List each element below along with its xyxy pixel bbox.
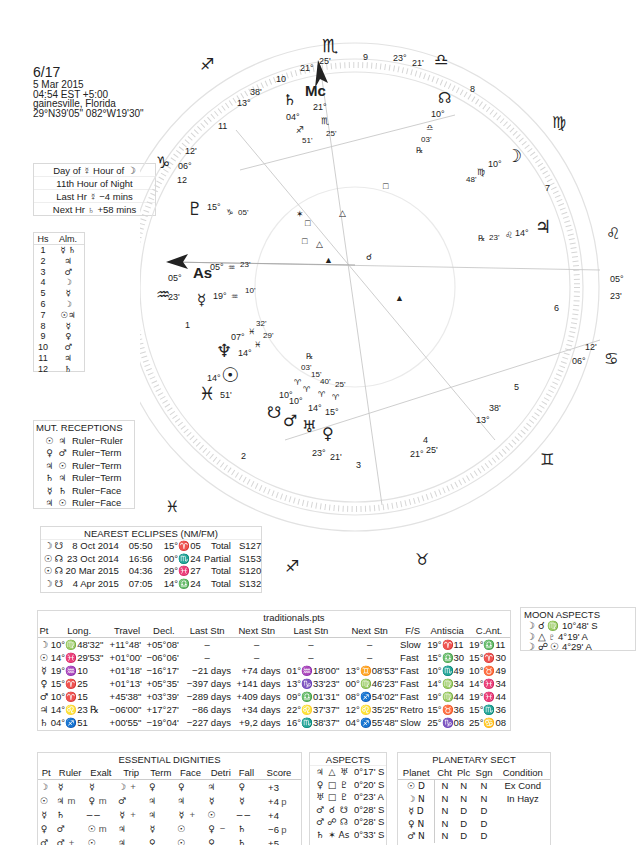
svg-text:29': 29' xyxy=(263,331,274,340)
column-header: Next Stn xyxy=(232,624,282,638)
svg-text:06°: 06° xyxy=(572,356,586,366)
mutual-receptions-panel: MUT. RECEPTIONS ☉♃Ruler−Ruler♀♂Ruler−Ter… xyxy=(33,420,135,509)
house-number: 12 xyxy=(34,364,52,375)
svg-text:14°: 14° xyxy=(238,348,252,358)
table-cell: 15°♈30 xyxy=(468,651,510,664)
svg-text:♃: ♃ xyxy=(535,216,551,237)
dignity-cell: ☿+ xyxy=(175,808,205,822)
almuten-row: 7☉♃ xyxy=(34,310,84,321)
aspect-orb: 0°33' S xyxy=(354,829,384,840)
luminary-glyph: ☽ xyxy=(44,540,55,553)
dignity-cell: +4p xyxy=(257,794,301,808)
table-cell: 16°♏38'37" xyxy=(282,716,341,729)
table-cell: 10°♈15 xyxy=(50,690,109,703)
planet-glyph: ♃ xyxy=(175,795,187,808)
svg-text:♌: ♌ xyxy=(505,230,513,240)
dignity-marker: m xyxy=(98,822,108,835)
svg-text:25': 25' xyxy=(319,56,331,66)
svg-text:▲: ▲ xyxy=(324,255,333,265)
column-header: Term xyxy=(146,766,175,780)
almuten-planet: ☿ xyxy=(52,288,84,299)
table-cell: – xyxy=(282,638,341,652)
sect-sgn: D xyxy=(473,830,496,843)
table-cell: 15°♏36 xyxy=(468,703,510,716)
svg-text:23°: 23° xyxy=(312,448,326,458)
table-cell: ☿ xyxy=(38,664,50,677)
table-cell: ♃ xyxy=(38,703,50,716)
dignity-cell: ♀ xyxy=(175,780,205,795)
dignity-cell: ☽ xyxy=(38,780,55,795)
almuten-planet: ♂ xyxy=(52,267,84,278)
aspects-panel: ASPECTS ♃△♅0°17' S♀□♇0°20' S♅□♇0°23' A♂☌… xyxy=(309,752,387,845)
svg-text:♌: ♌ xyxy=(606,224,620,243)
aspect-orb: 0°23' A xyxy=(354,791,384,802)
table-cell: – xyxy=(340,638,399,652)
svg-text:□: □ xyxy=(302,236,308,246)
table-cell: −86 days xyxy=(182,703,232,716)
aspect-glyph: ☌ xyxy=(326,804,338,817)
reception-type: Ruler−Face xyxy=(72,485,121,496)
eclipse-date: 23 Oct 2014 xyxy=(65,553,118,566)
svg-text:10°: 10° xyxy=(488,159,502,169)
dignity-cell: ♂ xyxy=(38,836,55,845)
planet-glyph: ♀ xyxy=(43,447,56,459)
reception-row: ♀♂Ruler−Term xyxy=(34,447,134,459)
table-cell: 10°♏49 xyxy=(426,664,468,677)
table-row: ♄04°♐51+00'55"−19°04'−227 days+9,2 days1… xyxy=(38,716,510,729)
table-cell: 19°♒10 xyxy=(50,664,109,677)
dignity-marker: + xyxy=(128,780,138,793)
sect-plc: N xyxy=(455,780,473,793)
table-row: ♃14°♌23 ℞−06'00"+17°27'−86 days+34 days2… xyxy=(38,703,510,716)
table-cell: 14°♓29'53" xyxy=(50,651,109,664)
dignity-cell: ♃m xyxy=(55,794,86,808)
aspect-glyph: ✶ xyxy=(326,829,338,842)
sect-cond xyxy=(495,830,550,843)
almuten-row: 6☽ xyxy=(34,299,84,310)
planet-glyph: ♀ xyxy=(206,837,218,845)
svg-text:25': 25' xyxy=(335,380,346,389)
planet-glyph: ☉ xyxy=(56,460,69,472)
planet-glyph: ♄ xyxy=(236,823,248,836)
svg-text:9: 9 xyxy=(363,52,368,62)
svg-text:21°: 21° xyxy=(313,102,327,112)
table-cell: 01°♒18'00" xyxy=(282,664,341,677)
table-cell: 00°♍46'23" xyxy=(340,677,399,690)
planet-glyph: ♃ xyxy=(206,781,218,794)
planet-glyph: ☿ xyxy=(38,809,50,822)
svg-text:♋: ♋ xyxy=(604,349,618,368)
table-cell: 14°♌23 ℞ xyxy=(50,703,109,716)
column-header: Last Stn xyxy=(182,624,232,638)
table-cell: −19°04' xyxy=(145,716,182,729)
planet-glyph: ☽ xyxy=(38,781,50,794)
svg-text:♏: ♏ xyxy=(322,35,338,56)
dignity-cell: ♃ xyxy=(146,794,175,808)
reception-type: Ruler−Term xyxy=(72,447,121,458)
aspect-orb: 0°28' S xyxy=(354,804,384,815)
node-glyph: ☋ xyxy=(55,578,66,591)
sect-plc: D xyxy=(455,830,473,843)
table-cell: Fast xyxy=(399,664,426,677)
sect-plc: D xyxy=(455,818,473,831)
eclipse-date: 8 Oct 2014 xyxy=(65,540,118,553)
dignity-cell: +5 xyxy=(257,836,301,845)
chart-info: 5 Mar 2015 04:54 EST +5:00 gainesville, … xyxy=(33,80,144,118)
svg-text:05°: 05° xyxy=(168,273,182,283)
almuten-row: 3♂ xyxy=(34,267,84,278)
column-header: Travel xyxy=(109,624,146,638)
table-row: ♂ NNDD xyxy=(398,830,550,843)
table-cell: +34 days xyxy=(232,703,282,716)
almuten-planet: ♃ xyxy=(52,353,84,364)
next-hour: Next Hr ♄ +58 mins xyxy=(34,203,155,216)
dignity-marker: p xyxy=(279,823,289,836)
aspect-symbols: ✶ □ □ △ △ □ ▲ ☌ ▲ xyxy=(296,181,404,303)
column-header: Planet xyxy=(398,766,435,780)
table-cell: −227 days xyxy=(182,716,232,729)
table-row: ☽10°♍48'32"+11°48'+05°08'––––Slow19°♈111… xyxy=(38,638,510,652)
sect-cht: N xyxy=(435,830,455,843)
svg-text:♓: ♓ xyxy=(199,383,215,404)
svg-text:♓: ♓ xyxy=(248,327,255,336)
table-cell: +141 days xyxy=(232,677,282,690)
svg-text:13°: 13° xyxy=(476,415,490,425)
dignity-cell: ♀− xyxy=(206,822,236,836)
dignity-cell: ♀ xyxy=(146,780,175,795)
